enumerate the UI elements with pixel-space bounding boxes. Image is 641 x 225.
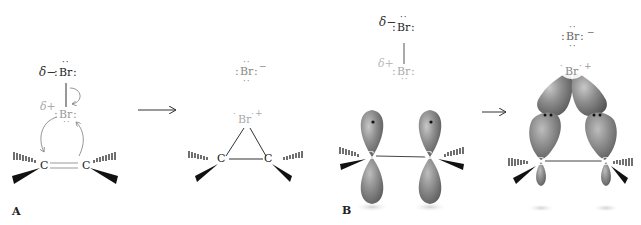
hashed-wedge-right (284, 151, 302, 160)
negative-charge: − (587, 28, 595, 37)
lone-pair-dots: : (411, 66, 415, 77)
lone-pair-dots: ·· (62, 58, 70, 67)
c-orbital-left (529, 113, 561, 160)
panel-b-products (509, 65, 632, 212)
br-c-bond-left (226, 128, 244, 156)
lone-pair-dots: : (411, 22, 415, 33)
bromonium-atom: Br (238, 114, 251, 125)
lone-pair-dots: ·· (243, 58, 251, 67)
lone-pair-dots: · (560, 62, 563, 71)
carbon-atom-left: C (217, 153, 225, 164)
curved-arrow-br-to-c (41, 117, 57, 152)
carbon-atom-right: C (601, 156, 609, 167)
carbon-atom-right: C (264, 153, 272, 164)
electron-left (371, 120, 374, 123)
lone-pair-dots: · (251, 110, 254, 119)
lone-pair-dots: : (235, 66, 239, 77)
hashed-wedge-left (509, 158, 527, 166)
carbon-atom-right: C (82, 160, 90, 171)
hashed-wedge-right (445, 147, 463, 157)
hashed-wedge-left (189, 151, 207, 160)
bromine-atom-top: Br (59, 67, 72, 78)
lone-pair-dots: : (561, 31, 565, 42)
panel-label-b: B (342, 204, 351, 217)
carbon-atom-left: C (536, 156, 544, 167)
lone-pair-dots: : (392, 22, 396, 33)
curved-arrow-br-br (70, 88, 80, 104)
bromonium-atom: Br (565, 66, 578, 77)
panel-a-products (189, 128, 302, 182)
positive-charge: + (255, 109, 263, 118)
lone-pair-dots: : (392, 66, 396, 77)
panel-label-a: A (12, 205, 21, 218)
hashed-wedge-left (340, 147, 358, 157)
solid-wedge-left (12, 168, 40, 184)
carbon-atom-right: C (424, 150, 432, 161)
hashed-wedge-right (94, 152, 115, 163)
lone-pair-dots: : (580, 31, 584, 42)
bromination-mechanism-figure: δ− : Br : ·· δ+ : Br : ·· C C : Br : − ·… (0, 0, 641, 225)
lone-pair-dots: ·· (569, 23, 577, 32)
solid-wedge-right (272, 164, 292, 182)
solid-wedge-right (438, 159, 464, 170)
lone-pair-dots: ·· (401, 75, 409, 84)
lone-pair-dots: ·· (243, 77, 251, 86)
lone-pair-dots: : (54, 109, 58, 120)
carbon-atom-left: C (40, 160, 48, 171)
solid-wedge-left (195, 164, 218, 182)
positive-charge: + (584, 62, 592, 71)
lone-pair-dots: : (254, 66, 258, 77)
lone-pair-dots: : (73, 109, 77, 120)
solid-wedge-right (611, 166, 628, 184)
curved-arrow-pi-to-br (76, 122, 83, 156)
br-orbital-left (537, 72, 572, 116)
c-orbital-right (585, 113, 617, 160)
lone-pair-dots: · (233, 110, 236, 119)
p-orbital-lower-right (419, 157, 442, 204)
carbon-atom-left: C (366, 150, 374, 161)
p-orbital-lower-left (361, 157, 384, 204)
lone-pair-dots: : (54, 67, 58, 78)
lone-pair-dots: : (73, 67, 77, 78)
hashed-wedge-left (14, 152, 35, 163)
solid-wedge-right (90, 168, 118, 184)
br-orbital-right (572, 72, 607, 116)
lone-pair-dots: · (579, 62, 582, 71)
negative-charge: − (259, 62, 267, 71)
electron-right (429, 120, 432, 123)
panel-a-reactants (12, 83, 118, 184)
lone-pair-dots: ·· (400, 13, 408, 22)
hashed-wedge-right (614, 158, 632, 166)
diagram-graphics (0, 0, 641, 225)
c-c-sigma-bond (376, 156, 426, 157)
solid-wedge-left (340, 159, 366, 170)
lone-pair-dots: ·· (569, 42, 577, 51)
lone-pair-dots: ·· (63, 118, 71, 127)
bromine-atom-top: Br (397, 22, 410, 33)
solid-wedge-left (513, 166, 536, 184)
